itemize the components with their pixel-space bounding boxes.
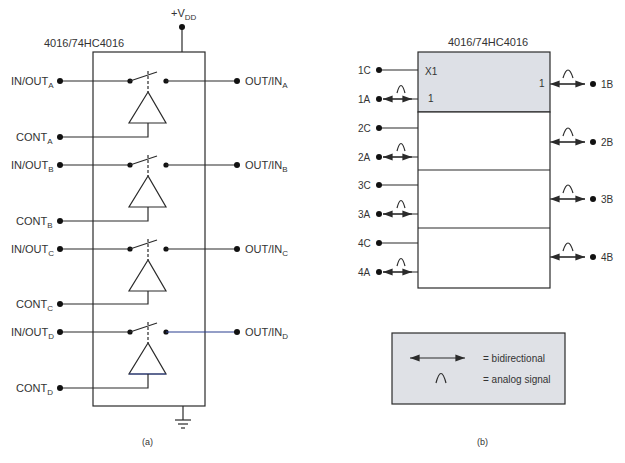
- cont-pin-b: [57, 218, 63, 224]
- control-buffer-icon: [129, 260, 166, 291]
- chip-body-b: [418, 112, 550, 288]
- svg-text:IN/OUTA: IN/OUTA: [11, 75, 54, 90]
- analog-signal-icon: [563, 70, 573, 78]
- header-input-label: 1: [428, 93, 434, 104]
- svg-text:IN/OUTC: IN/OUTC: [11, 243, 54, 258]
- control-block-header: [418, 52, 550, 112]
- channel-d: IN/OUTD OUT/IND CONTD: [11, 322, 288, 397]
- svg-text:CONTD: CONTD: [16, 382, 53, 397]
- vdd-label: +VDD: [171, 7, 197, 22]
- legend-box: [392, 333, 565, 404]
- ground-icon: [175, 420, 191, 428]
- svg-text:1C: 1C: [358, 65, 371, 76]
- control-buffer-icon: [129, 176, 166, 207]
- chip-label-b: 4016/74HC4016: [448, 36, 528, 48]
- header-output-label: 1: [539, 78, 545, 89]
- switch-icon: [130, 156, 157, 165]
- analog-signal-icon: [397, 201, 405, 209]
- analog-signal-icon: [397, 86, 405, 94]
- svg-text:OUT/IND: OUT/IND: [245, 326, 288, 341]
- out-in-pin-b: [234, 162, 240, 168]
- in-out-pin-d: [57, 329, 63, 335]
- out-in-pin-a: [234, 78, 240, 84]
- svg-text:3B: 3B: [601, 194, 614, 205]
- caption-b: (b): [477, 437, 488, 447]
- svg-text:IN/OUTB: IN/OUTB: [11, 159, 54, 174]
- legend: = bidirectional = analog signal: [392, 333, 565, 404]
- control-buffer-icon: [129, 343, 166, 374]
- in-out-pin-a: [57, 78, 63, 84]
- svg-text:CONTA: CONTA: [16, 131, 53, 146]
- cont-pin-a: [57, 134, 63, 140]
- in-out-pin-b: [57, 162, 63, 168]
- analog-signal-icon: [397, 259, 405, 267]
- caption-a: (a): [142, 437, 153, 447]
- analog-signal-icon: [397, 144, 405, 152]
- switch-icon: [130, 240, 157, 249]
- control-buffer-icon: [129, 92, 166, 123]
- channel-a: IN/OUTA OUT/INA CONTA: [11, 71, 288, 146]
- svg-text:3C: 3C: [358, 180, 371, 191]
- svg-text:OUT/INC: OUT/INC: [245, 243, 288, 258]
- svg-text:1B: 1B: [601, 79, 614, 90]
- channel-b: IN/OUTB OUT/INB CONTB: [11, 155, 288, 230]
- svg-text:OUT/INB: OUT/INB: [245, 159, 288, 174]
- svg-text:CONTB: CONTB: [16, 215, 53, 230]
- chip-label-a: 4016/74HC4016: [44, 37, 124, 49]
- svg-text:4A: 4A: [358, 267, 371, 278]
- switch-icon: [130, 323, 157, 332]
- figure-a: 4016/74HC4016 +VDD (a) IN/OUTA: [11, 7, 288, 447]
- figure-b: 4016/74HC4016 X1 1 1 1C 1A 1B 2C: [358, 36, 614, 447]
- out-in-pin-c: [234, 246, 240, 252]
- channel-c: IN/OUTC OUT/INC CONTC: [11, 239, 288, 313]
- cont-pin-d: [57, 385, 63, 391]
- out-in-pin-d: [234, 329, 240, 335]
- svg-text:4B: 4B: [601, 252, 614, 263]
- analog-signal-icon: [563, 128, 573, 136]
- in-out-pin-c: [57, 246, 63, 252]
- svg-text:2C: 2C: [358, 123, 371, 134]
- cont-pin-c: [57, 301, 63, 307]
- legend-bidirectional-label: = bidirectional: [483, 353, 545, 364]
- analog-signal-icon: [563, 243, 573, 251]
- svg-text:3A: 3A: [358, 209, 371, 220]
- svg-text:IN/OUTD: IN/OUTD: [11, 326, 54, 341]
- analog-switch-diagram: 4016/74HC4016 +VDD (a) IN/OUTA: [0, 0, 625, 463]
- svg-text:4C: 4C: [358, 238, 371, 249]
- chip-body-a: [93, 52, 205, 406]
- svg-text:2B: 2B: [601, 137, 614, 148]
- svg-text:1A: 1A: [358, 94, 371, 105]
- legend-analog-label: = analog signal: [483, 374, 551, 385]
- switch-icon: [130, 72, 157, 81]
- svg-text:CONTC: CONTC: [16, 298, 53, 313]
- svg-text:2A: 2A: [358, 152, 371, 163]
- vdd-pin-dot: [179, 24, 185, 30]
- header-x1-label: X1: [425, 66, 438, 77]
- svg-text:OUT/INA: OUT/INA: [245, 75, 288, 90]
- analog-signal-icon: [563, 185, 573, 193]
